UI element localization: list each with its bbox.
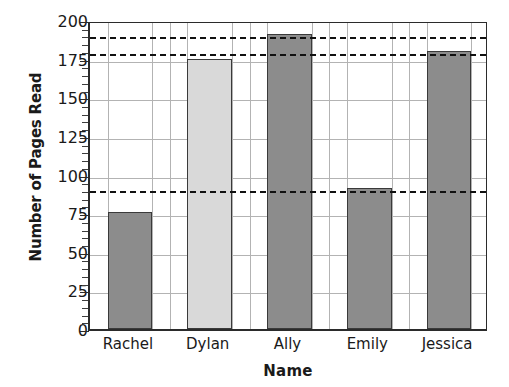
y-axis-tick-label: 200 — [28, 14, 88, 30]
bar-ally — [267, 34, 312, 329]
x-axis-title: Name — [88, 362, 488, 380]
x-axis-tick-label: Rachel — [88, 335, 168, 353]
gridline-vertical — [471, 23, 472, 329]
y-axis-tick-label: 125 — [28, 130, 88, 146]
lower-dashed-reference-line — [90, 191, 486, 193]
y-axis-tick-label: 50 — [28, 246, 88, 262]
y-axis-tick-label: 175 — [28, 53, 88, 69]
gridline-vertical — [329, 23, 330, 329]
gridline-vertical — [152, 23, 153, 329]
y-axis-tick-label: 0 — [28, 323, 88, 339]
y-axis-major-tick — [80, 331, 89, 332]
gridline-vertical — [392, 23, 393, 329]
gridline-vertical — [232, 23, 233, 329]
bar-jessica — [427, 51, 472, 329]
middle-dashed-reference-line — [90, 54, 486, 56]
y-axis-tick-label: 25 — [28, 284, 88, 300]
y-axis-tick-label: 150 — [28, 91, 88, 107]
upper-dashed-reference-line — [90, 37, 486, 39]
gridline-vertical — [250, 23, 251, 329]
plot-area — [88, 22, 487, 331]
gridline-vertical — [170, 23, 171, 329]
x-axis-tick-label: Dylan — [168, 335, 248, 353]
x-axis-tick-label: Ally — [248, 335, 328, 353]
x-axis-tick-label: Jessica — [407, 335, 487, 353]
y-axis-tick-label: 100 — [28, 169, 88, 185]
bar-emily — [347, 188, 392, 329]
gridline-vertical — [312, 23, 313, 329]
gridline-vertical — [409, 23, 410, 329]
bar-dylan — [187, 59, 232, 329]
x-axis-tick-label: Emily — [327, 335, 407, 353]
bar-rachel — [108, 212, 153, 329]
bar-chart: Number of Pages Read 0255075100125150175… — [0, 0, 509, 387]
y-axis-tick-label: 75 — [28, 207, 88, 223]
